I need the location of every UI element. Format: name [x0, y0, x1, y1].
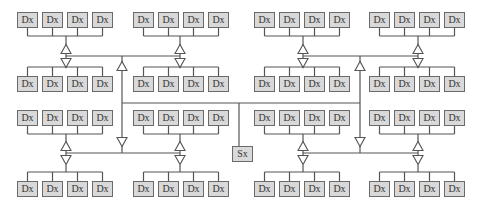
node-dx: Dx: [17, 110, 38, 126]
node-dx: Dx: [444, 76, 465, 92]
repeater-triangle-icon: [61, 45, 71, 54]
node-dx: Dx: [329, 12, 350, 28]
node-dx: Dx: [254, 181, 275, 197]
node-dx: Dx: [67, 76, 88, 92]
repeater-triangle-icon: [413, 59, 423, 68]
node-dx: Dx: [133, 76, 154, 92]
node-dx: Dx: [444, 110, 465, 126]
node-dx: Dx: [92, 12, 113, 28]
repeater-triangle-icon: [117, 62, 127, 71]
node-dx: Dx: [394, 76, 415, 92]
node-dx: Dx: [279, 12, 300, 28]
node-dx: Dx: [304, 76, 325, 92]
repeater-triangle-icon: [298, 45, 308, 54]
node-dx: Dx: [183, 110, 204, 126]
node-dx: Dx: [254, 12, 275, 28]
node-dx: Dx: [133, 110, 154, 126]
switch-node-sx: Sx: [232, 146, 253, 162]
repeater-triangle-icon: [413, 45, 423, 54]
node-dx: Dx: [208, 12, 229, 28]
node-dx: Dx: [42, 181, 63, 197]
repeater-triangle-icon: [413, 156, 423, 165]
node-dx: Dx: [394, 12, 415, 28]
repeater-triangle-icon: [117, 138, 127, 147]
repeater-triangle-icon: [61, 142, 71, 151]
node-dx: Dx: [279, 76, 300, 92]
repeater-triangle-icon: [175, 59, 185, 68]
node-dx: Dx: [329, 110, 350, 126]
node-dx: Dx: [208, 181, 229, 197]
node-dx: Dx: [279, 110, 300, 126]
node-dx: Dx: [394, 110, 415, 126]
node-dx: Dx: [183, 76, 204, 92]
repeater-triangle-icon: [413, 142, 423, 151]
node-dx: Dx: [133, 12, 154, 28]
node-dx: Dx: [304, 12, 325, 28]
repeater-triangle-icon: [355, 138, 365, 147]
node-dx: Dx: [42, 110, 63, 126]
repeater-triangle-icon: [298, 142, 308, 151]
repeater-triangle-icon: [355, 62, 365, 71]
node-dx: Dx: [419, 181, 440, 197]
node-dx: Dx: [304, 181, 325, 197]
repeater-triangle-icon: [175, 45, 185, 54]
bus-diagram: DxDxDxDxDxDxDxDxDxDxDxDxDxDxDxDxDxDxDxDx…: [0, 0, 479, 208]
node-dx: Dx: [17, 181, 38, 197]
node-dx: Dx: [419, 76, 440, 92]
node-dx: Dx: [67, 110, 88, 126]
node-dx: Dx: [419, 12, 440, 28]
node-dx: Dx: [444, 12, 465, 28]
node-dx: Dx: [92, 76, 113, 92]
node-dx: Dx: [17, 12, 38, 28]
node-dx: Dx: [444, 181, 465, 197]
repeater-triangle-icon: [175, 156, 185, 165]
node-dx: Dx: [254, 76, 275, 92]
node-dx: Dx: [92, 181, 113, 197]
node-dx: Dx: [67, 181, 88, 197]
node-dx: Dx: [279, 181, 300, 197]
connection-lines: [0, 0, 479, 208]
node-dx: Dx: [369, 181, 390, 197]
node-dx: Dx: [158, 181, 179, 197]
node-dx: Dx: [394, 181, 415, 197]
node-dx: Dx: [369, 110, 390, 126]
node-dx: Dx: [329, 76, 350, 92]
node-dx: Dx: [42, 12, 63, 28]
node-dx: Dx: [158, 12, 179, 28]
repeater-triangle-icon: [298, 59, 308, 68]
node-dx: Dx: [133, 181, 154, 197]
node-dx: Dx: [158, 110, 179, 126]
node-dx: Dx: [17, 76, 38, 92]
node-dx: Dx: [369, 12, 390, 28]
node-dx: Dx: [92, 110, 113, 126]
repeater-triangle-icon: [298, 156, 308, 165]
repeater-triangle-icon: [175, 142, 185, 151]
node-dx: Dx: [208, 76, 229, 92]
node-dx: Dx: [254, 110, 275, 126]
node-dx: Dx: [304, 110, 325, 126]
node-dx: Dx: [208, 110, 229, 126]
node-dx: Dx: [42, 76, 63, 92]
repeater-triangle-icon: [61, 59, 71, 68]
node-dx: Dx: [67, 12, 88, 28]
node-dx: Dx: [369, 76, 390, 92]
node-dx: Dx: [183, 181, 204, 197]
node-dx: Dx: [158, 76, 179, 92]
node-dx: Dx: [183, 12, 204, 28]
repeater-triangle-icon: [61, 156, 71, 165]
node-dx: Dx: [419, 110, 440, 126]
node-dx: Dx: [329, 181, 350, 197]
